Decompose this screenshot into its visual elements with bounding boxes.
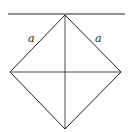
left-edge-label: a: [28, 32, 35, 45]
right-edge-label: a: [95, 32, 102, 45]
diagram-canvas: a a: [0, 0, 131, 132]
